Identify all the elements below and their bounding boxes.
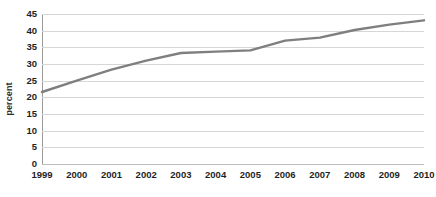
y-tick-label-40: 40 bbox=[26, 26, 37, 36]
x-tick-label-2004: 2004 bbox=[205, 170, 226, 180]
y-tick-label-10: 10 bbox=[26, 126, 37, 136]
y-tick-label-5: 5 bbox=[32, 143, 37, 153]
y-tick-label-45: 45 bbox=[26, 9, 37, 19]
y-tick-label-15: 15 bbox=[26, 109, 37, 119]
x-tick-label-2006: 2006 bbox=[275, 170, 296, 180]
y-tick-label-30: 30 bbox=[26, 59, 37, 69]
y-tick-label-0: 0 bbox=[32, 159, 37, 169]
gridline-0 bbox=[42, 164, 424, 165]
x-tick-label-2009: 2009 bbox=[379, 170, 400, 180]
y-tick-label-25: 25 bbox=[26, 76, 37, 86]
x-tick-label-2002: 2002 bbox=[136, 170, 157, 180]
series-polyline bbox=[42, 20, 424, 92]
x-tick-label-2005: 2005 bbox=[240, 170, 261, 180]
line-chart: percent 051015202530354045 1999200020012… bbox=[0, 0, 436, 197]
plot-area bbox=[42, 14, 424, 164]
x-tick-label-2001: 2001 bbox=[101, 170, 122, 180]
x-tick-label-2007: 2007 bbox=[309, 170, 330, 180]
x-tick-label-2010: 2010 bbox=[413, 170, 434, 180]
y-axis-tick-labels: 051015202530354045 bbox=[18, 0, 40, 197]
x-tick-label-2000: 2000 bbox=[66, 170, 87, 180]
series-line-percent bbox=[42, 14, 424, 164]
y-axis-title-label: percent bbox=[4, 82, 14, 115]
x-axis-tick-labels: 1999200020012002200320042005200620072008… bbox=[42, 170, 424, 192]
y-axis-title: percent bbox=[0, 0, 18, 197]
x-tick-label-2003: 2003 bbox=[170, 170, 191, 180]
y-tick-label-20: 20 bbox=[26, 93, 37, 103]
y-tick-label-35: 35 bbox=[26, 43, 37, 53]
x-tick-label-2008: 2008 bbox=[344, 170, 365, 180]
x-tick-label-1999: 1999 bbox=[31, 170, 52, 180]
